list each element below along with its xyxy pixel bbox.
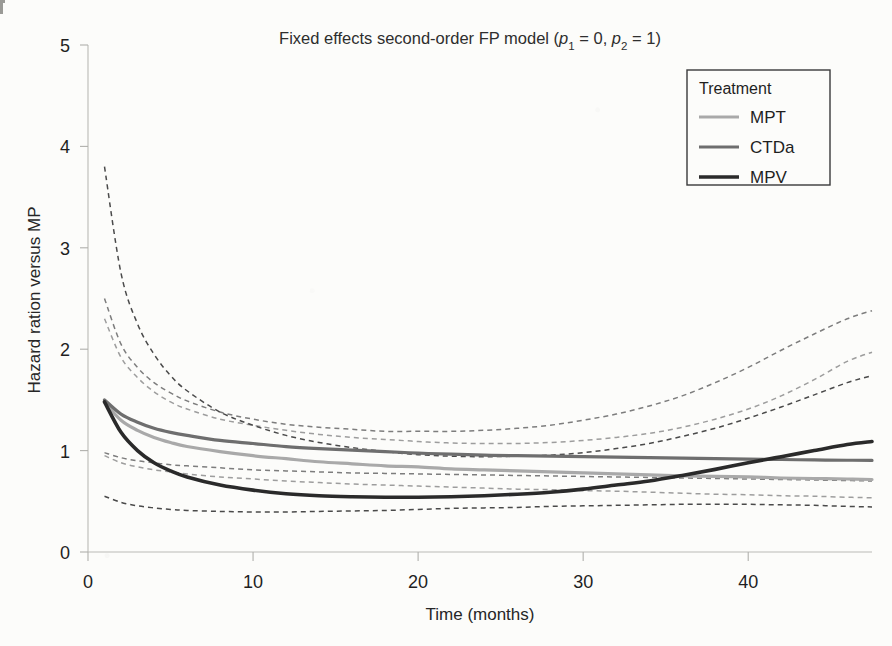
x-axis-label: Time (months) [426,605,535,624]
title-p2: p [611,29,621,47]
y-tick-label: 1 [60,442,70,462]
legend-item-mpv[interactable]: MPV [699,168,788,187]
ci-upper-mpv [105,167,872,457]
x-tick-label: 20 [408,572,428,592]
y-tick-label: 2 [60,340,70,360]
y-axis: 012345 Hazard ration versus MP [25,36,88,563]
legend-item-ctda[interactable]: CTDa [699,138,795,157]
x-tick-label: 10 [243,572,263,592]
legend[interactable]: Treatment MPTCTDaMPV [687,70,830,187]
ci-upper-mpt [105,319,872,444]
y-tick-label: 4 [60,137,70,157]
x-tick-label: 30 [573,572,593,592]
hazard-ratio-chart: 012345 Hazard ration versus MP 010203040… [0,0,892,646]
legend-label-mpt: MPT [750,108,786,127]
legend-title: Treatment [699,80,772,97]
title-eq1: = 0, [575,29,612,47]
x-axis: 010203040 Time (months) [83,552,872,624]
y-axis-label: Hazard ration versus MP [25,206,44,393]
x-tick-labels: 010203040 [83,572,758,592]
x-tick-label: 40 [738,572,758,592]
page-title: Fixed effects second-order FP model (p1 … [279,29,661,52]
legend-label-mpv: MPV [750,168,788,187]
ci-lower-mpv [105,496,872,512]
title-p1: p [558,29,568,47]
title-lead: Fixed effects second-order FP model ( [279,29,560,47]
scan-edge-mark-left [0,0,3,14]
treatment-curve-layer [105,400,872,497]
curve-mpv [105,402,872,497]
y-tick-labels: 012345 [60,36,70,563]
title-eq2: = 1) [627,29,660,47]
y-tick-label: 3 [60,239,70,259]
y-tick-label: 0 [60,543,70,563]
legend-entry-group[interactable]: MPTCTDaMPV [699,108,795,187]
legend-item-mpt[interactable]: MPT [699,108,786,127]
x-tick-group [88,552,748,561]
y-tick-label: 5 [60,36,70,56]
x-tick-label: 0 [83,572,93,592]
y-tick-group [80,45,88,552]
legend-label-ctda: CTDa [750,138,795,157]
figure-canvas: 012345 Hazard ration versus MP 010203040… [0,0,892,646]
